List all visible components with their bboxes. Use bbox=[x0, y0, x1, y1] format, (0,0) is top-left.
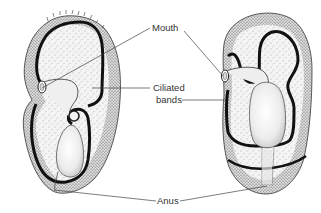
ciliated-bands-label-line1: Ciliated bbox=[153, 83, 185, 93]
anus-label: Anus bbox=[157, 196, 179, 206]
ciliated-bands-label-line2: bands bbox=[156, 95, 182, 105]
mouth-label: Mouth bbox=[152, 23, 178, 33]
mouth-leader-right bbox=[184, 31, 223, 76]
anus-leader-right bbox=[180, 186, 267, 201]
anus-leader-left bbox=[54, 190, 156, 201]
larva-diagram: Mouth Ciliated bands Anus bbox=[0, 0, 321, 213]
left-larva bbox=[23, 10, 120, 193]
right-larva bbox=[221, 13, 312, 194]
